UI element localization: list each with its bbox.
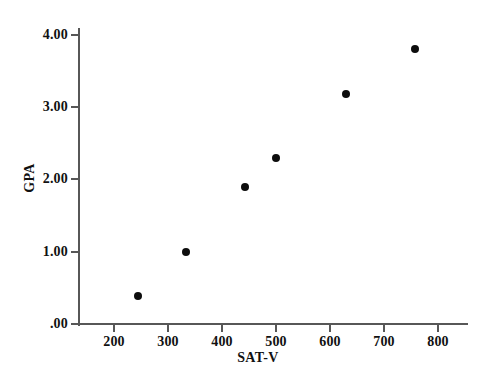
x-tick-label-0: 200 bbox=[103, 334, 125, 350]
x-tick-1 bbox=[167, 325, 169, 332]
x-tick-2 bbox=[221, 325, 223, 332]
x-tick-label-5: 700 bbox=[373, 334, 395, 350]
data-point bbox=[134, 292, 142, 300]
x-axis-line bbox=[78, 323, 468, 325]
y-axis-title: GPA bbox=[22, 163, 38, 193]
data-point bbox=[272, 154, 280, 162]
x-tick-label-1: 300 bbox=[157, 334, 179, 350]
data-point bbox=[241, 183, 249, 191]
data-point bbox=[342, 90, 350, 98]
x-tick-6 bbox=[437, 325, 439, 332]
x-tick-0 bbox=[113, 325, 115, 332]
y-tick-3 bbox=[71, 106, 78, 108]
y-axis-line bbox=[78, 28, 80, 326]
y-tick-4 bbox=[71, 34, 78, 36]
x-tick-label-6: 800 bbox=[427, 334, 449, 350]
y-tick-label-0: .00 bbox=[50, 316, 68, 332]
scatter-plot-figure: .001.002.003.004.00 20030040050060070080… bbox=[0, 0, 478, 382]
x-tick-5 bbox=[383, 325, 385, 332]
y-tick-label-1: 1.00 bbox=[43, 244, 68, 260]
y-tick-0 bbox=[71, 323, 78, 325]
data-point bbox=[182, 248, 190, 256]
y-tick-label-4: 4.00 bbox=[43, 27, 68, 43]
data-point bbox=[411, 45, 419, 53]
x-axis-title: SAT-V bbox=[237, 350, 279, 366]
x-tick-label-4: 600 bbox=[319, 334, 341, 350]
x-tick-label-2: 400 bbox=[211, 334, 233, 350]
y-tick-1 bbox=[71, 251, 78, 253]
y-tick-label-2: 2.00 bbox=[43, 171, 68, 187]
y-tick-2 bbox=[71, 178, 78, 180]
x-tick-label-3: 500 bbox=[265, 334, 287, 350]
x-tick-3 bbox=[275, 325, 277, 332]
x-tick-4 bbox=[329, 325, 331, 332]
y-tick-label-3: 3.00 bbox=[43, 99, 68, 115]
